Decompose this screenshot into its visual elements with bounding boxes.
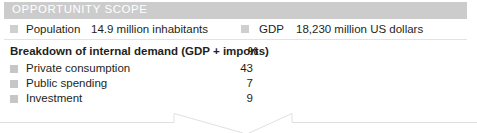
breakdown-title: Breakdown of internal demand (GDP + impo…	[10, 45, 269, 58]
breakdown-label-private-consumption: Private consumption	[26, 62, 130, 75]
breakdown-value-public-spending: 7	[213, 77, 253, 90]
square-bullet-icon-public-spending	[10, 80, 18, 88]
breakdown-label-public-spending: Public spending	[26, 77, 107, 90]
opportunity-scope-panel: OPPORTUNITY SCOPE Population 14.9 millio…	[0, 0, 477, 133]
square-bullet-icon-population	[10, 25, 18, 33]
square-bullet-icon-investment	[10, 95, 18, 103]
square-bullet-icon-private-consumption	[10, 65, 18, 73]
breakdown-value-private-consumption: 43	[213, 62, 253, 75]
stat-value-population: 14.9 million inhabitants	[91, 23, 208, 36]
funnel-pointer-icon	[0, 110, 477, 133]
stat-label-population: Population	[26, 23, 80, 36]
breakdown-label-investment: Investment	[26, 92, 82, 105]
breakdown-unit-label: %	[248, 45, 258, 58]
stat-value-gdp: 18,230 million US dollars	[296, 23, 423, 36]
stat-label-gdp: GDP	[259, 23, 284, 36]
panel-title: OPPORTUNITY SCOPE	[12, 3, 147, 15]
stat-row-divider	[4, 39, 467, 40]
square-bullet-icon-gdp	[241, 25, 249, 33]
breakdown-value-investment: 9	[213, 92, 253, 105]
